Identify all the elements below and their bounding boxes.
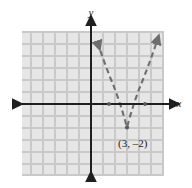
x-axis-label: x bbox=[176, 97, 182, 109]
vertex-label: (3, –2) bbox=[118, 137, 148, 150]
graph-figure: x y (3, –2) bbox=[0, 0, 192, 188]
x-intercept-right-dot bbox=[143, 102, 147, 106]
vertex-dot bbox=[125, 125, 129, 129]
x-intercept-left-dot bbox=[107, 102, 111, 106]
coordinate-plane-svg: x y (3, –2) bbox=[0, 0, 192, 188]
y-axis-label: y bbox=[88, 6, 94, 18]
